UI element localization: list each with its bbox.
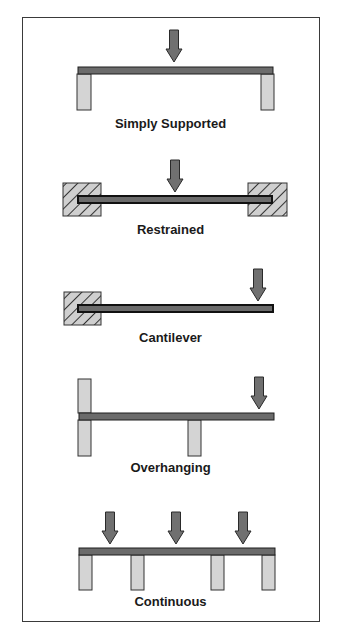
label-cantilever: Cantilever <box>0 330 341 345</box>
label-simply-supported: Simply Supported <box>0 116 341 131</box>
simply-supported-diagram <box>77 30 274 110</box>
load-arrow-icon <box>166 30 182 62</box>
load-arrow-icon <box>235 512 251 544</box>
label-continuous: Continuous <box>0 594 341 609</box>
continuous-diagram <box>79 512 275 590</box>
support-bottom-left <box>78 420 91 456</box>
restrained-diagram <box>63 160 287 216</box>
beam <box>78 67 273 74</box>
label-restrained: Restrained <box>0 222 341 237</box>
cantilever-diagram <box>64 269 273 325</box>
support-right <box>261 74 274 110</box>
support-middle <box>188 420 201 456</box>
beam <box>79 548 275 555</box>
load-arrow-icon <box>251 377 267 409</box>
label-overhanging: Overhanging <box>0 460 341 475</box>
support-4 <box>262 555 275 590</box>
beam <box>79 413 274 420</box>
support-top-left <box>78 379 91 413</box>
support-left <box>77 74 91 110</box>
overhanging-diagram <box>78 377 274 456</box>
beam <box>78 305 273 312</box>
load-arrow-icon <box>102 512 118 544</box>
load-arrow-icon <box>250 269 266 301</box>
beam <box>78 196 272 203</box>
load-arrow-icon <box>168 512 184 544</box>
support-3 <box>211 555 224 590</box>
beam-diagrams <box>0 0 341 637</box>
support-1 <box>79 555 92 590</box>
support-2 <box>131 555 144 590</box>
load-arrow-icon <box>167 160 183 192</box>
